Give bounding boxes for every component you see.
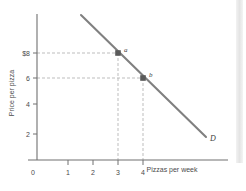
- x-tick-label-4: 4: [141, 169, 145, 176]
- x-tick-label-2: 2: [91, 169, 95, 176]
- demand-curve-figure: $8 6 4 2 0 1 2 3 4 a b D Pizzas per week…: [0, 0, 246, 191]
- y-tick-label-4: 4: [26, 101, 30, 108]
- x-tick-label-0: 0: [31, 169, 35, 176]
- data-point-label-b: b: [149, 71, 153, 79]
- x-tick-label-1: 1: [66, 169, 70, 176]
- data-point-label-a: a: [124, 46, 128, 54]
- y-tick-label-8: $8: [22, 50, 30, 57]
- demand-curve-label: D: [209, 134, 216, 143]
- demand-curve-chart: $8 6 4 2 0 1 2 3 4 a b D Pizzas per week…: [0, 0, 246, 191]
- data-point-b-marker: [140, 75, 146, 81]
- y-tick-label-2: 2: [26, 131, 30, 138]
- data-point-a-marker: [115, 50, 121, 56]
- y-tick-label-6: 6: [26, 75, 30, 82]
- y-axis-title: Price per pizza: [8, 70, 16, 116]
- x-axis-title: Pizzas per week: [147, 166, 198, 174]
- x-tick-label-3: 3: [116, 169, 120, 176]
- scan-edge-artifact: [236, 0, 243, 163]
